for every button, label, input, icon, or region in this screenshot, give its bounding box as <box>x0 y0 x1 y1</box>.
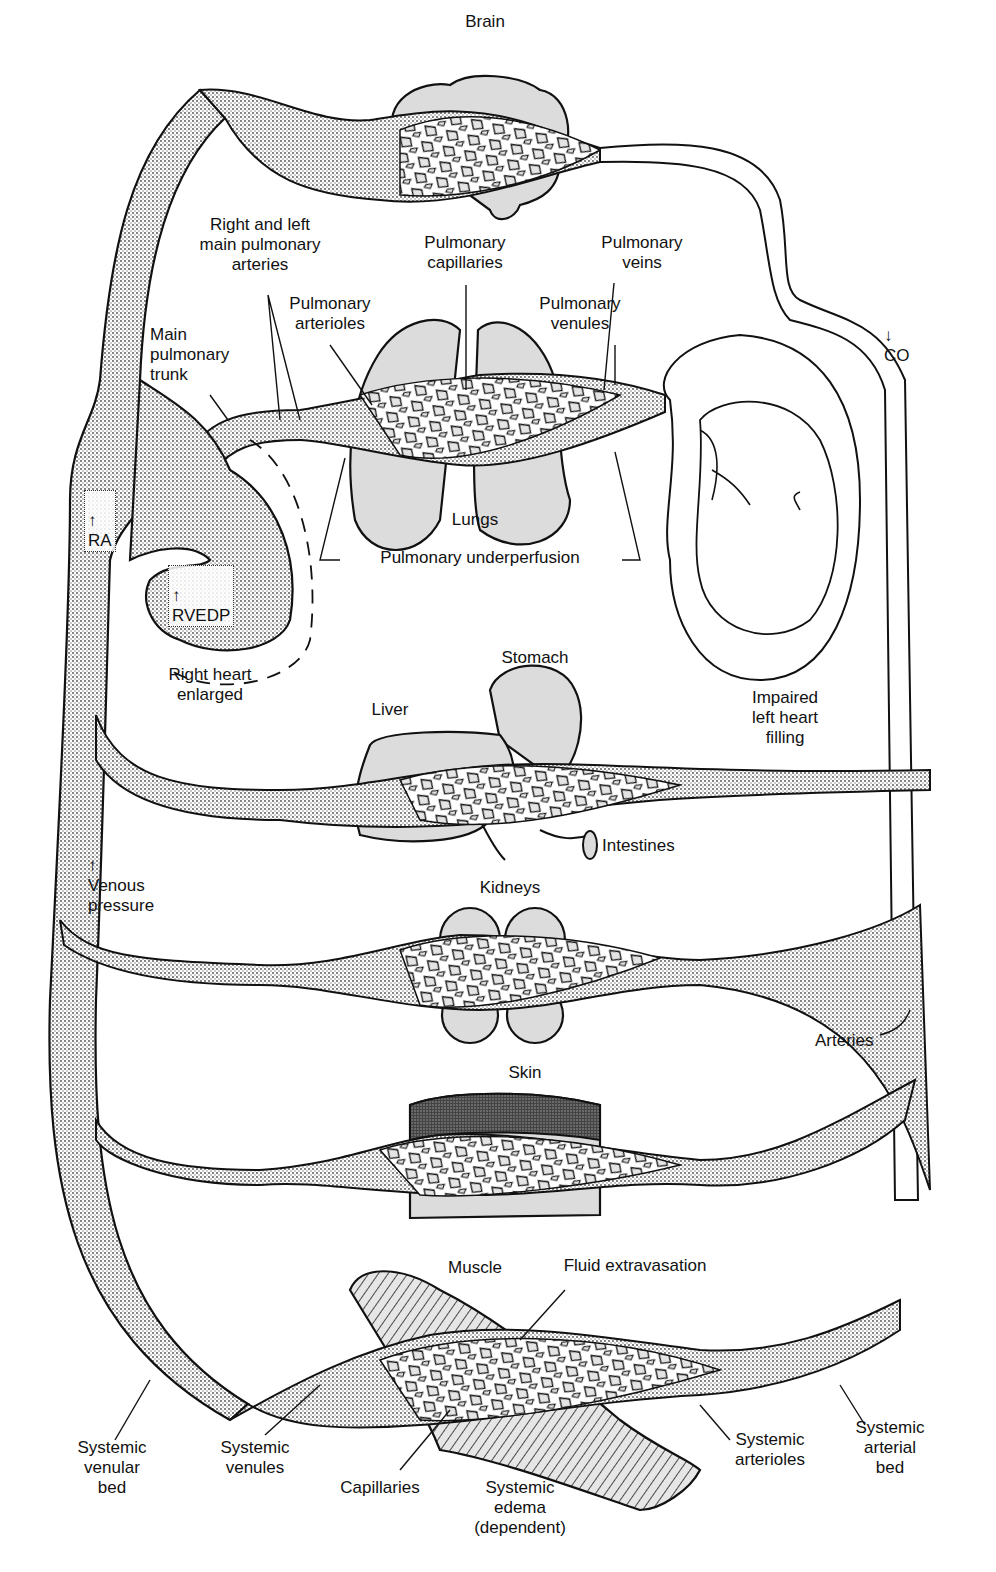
up-arrow-icon: ↑ <box>88 856 97 875</box>
label-skin: Skin <box>490 1063 560 1083</box>
skin-circuit <box>96 1080 915 1218</box>
label-main-pulmonary-trunk: Main pulmonary trunk <box>150 325 260 385</box>
label-brain: Brain <box>440 12 530 32</box>
label-systemic-venules: Systemic venules <box>205 1438 305 1478</box>
label-lungs: Lungs <box>440 510 510 530</box>
label-impaired-left-heart-filling: Impaired left heart filling <box>730 688 840 748</box>
label-pulmonary-venules: Pulmonary venules <box>520 294 640 334</box>
label-arteries: Arteries <box>815 1031 874 1051</box>
down-arrow-icon: ↓ <box>884 326 893 345</box>
label-ra: RA <box>88 531 112 550</box>
systemic-venous-trunk <box>49 90 248 1420</box>
label-systemic-arterial-bed: Systemic arterial bed <box>845 1418 935 1478</box>
label-systemic-edema: Systemic edema (dependent) <box>465 1478 575 1538</box>
left-heart <box>664 335 860 680</box>
up-arrow-icon: ↑ <box>88 511 97 530</box>
label-pulmonary-underperfusion: Pulmonary underperfusion <box>345 548 615 568</box>
label-stomach: Stomach <box>485 648 585 668</box>
ra-indicator: ↑ RA <box>84 490 116 552</box>
co-indicator: ↓ CO <box>884 306 910 366</box>
venous-pressure-indicator: ↑ Venous pressure <box>88 836 154 916</box>
rvedp-indicator: ↑ RVEDP <box>168 565 234 627</box>
label-rvedp: RVEDP <box>172 606 230 625</box>
label-systemic-venular-bed: Systemic venular bed <box>62 1438 162 1498</box>
label-systemic-arterioles: Systemic arterioles <box>720 1430 820 1470</box>
label-kidneys: Kidneys <box>465 878 555 898</box>
label-liver: Liver <box>355 700 425 720</box>
intestines-organ <box>583 831 597 859</box>
label-capillaries: Capillaries <box>325 1478 435 1498</box>
label-right-heart-enlarged: Right heart enlarged <box>150 665 270 705</box>
label-pulmonary-arterioles: Pulmonary arterioles <box>270 294 390 334</box>
label-fluid-extravasation: Fluid extravasation <box>545 1256 725 1276</box>
label-co: CO <box>884 346 910 365</box>
label-venous-pressure: Venous pressure <box>88 876 154 915</box>
label-pulmonary-veins: Pulmonary veins <box>582 233 702 273</box>
up-arrow-icon: ↑ <box>172 586 181 605</box>
label-muscle: Muscle <box>435 1258 515 1278</box>
label-pulmonary-capillaries: Pulmonary capillaries <box>400 233 530 273</box>
label-right-left-main-pulmonary-arteries: Right and left main pulmonary arteries <box>185 215 335 275</box>
muscle-circuit <box>230 1271 900 1510</box>
label-intestines: Intestines <box>602 836 675 856</box>
